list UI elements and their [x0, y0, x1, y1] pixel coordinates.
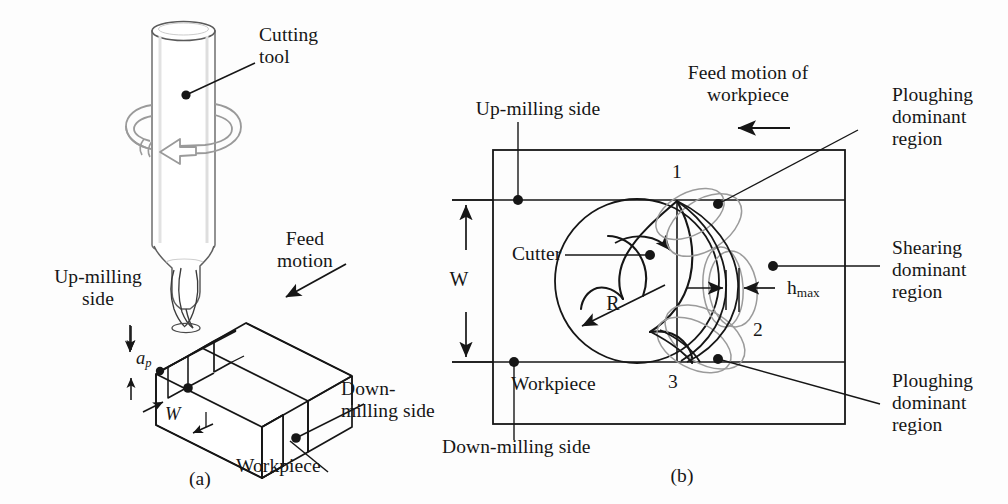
label-cutter-radius: R: [606, 292, 619, 314]
label-feed-motion-of-workpiece: Feed motion of workpiece: [688, 62, 809, 106]
position-marker-3: 3: [668, 371, 678, 393]
label-ploughing-dominant-region-top: Ploughing dominant region: [892, 84, 973, 149]
panel-b-tag: (b): [670, 465, 693, 487]
label-ploughing-dominant-region-bottom: Ploughing dominant region: [892, 370, 973, 435]
label-width-of-cut-b: W: [450, 268, 469, 290]
label-max-chip-thickness: hmax: [787, 277, 820, 301]
label-shearing-dominant-region: Shearing dominant region: [892, 237, 966, 302]
position-marker-1: 1: [672, 161, 682, 183]
label-down-milling-side-b: Down-milling side: [442, 436, 590, 458]
cutter-body: [555, 199, 719, 363]
label-up-milling-side-b: Up-milling side: [476, 98, 600, 120]
label-cutter: Cutter: [512, 243, 561, 265]
position-marker-2: 2: [753, 319, 763, 341]
figure-root: Cutting tool Feed motion Up-milling side…: [0, 0, 1008, 504]
label-workpiece-b: Workpiece: [511, 373, 596, 395]
hmax-subscript: max: [797, 285, 820, 300]
hmax-symbol: h: [787, 277, 797, 298]
panel-b-graphics: [0, 0, 1008, 504]
